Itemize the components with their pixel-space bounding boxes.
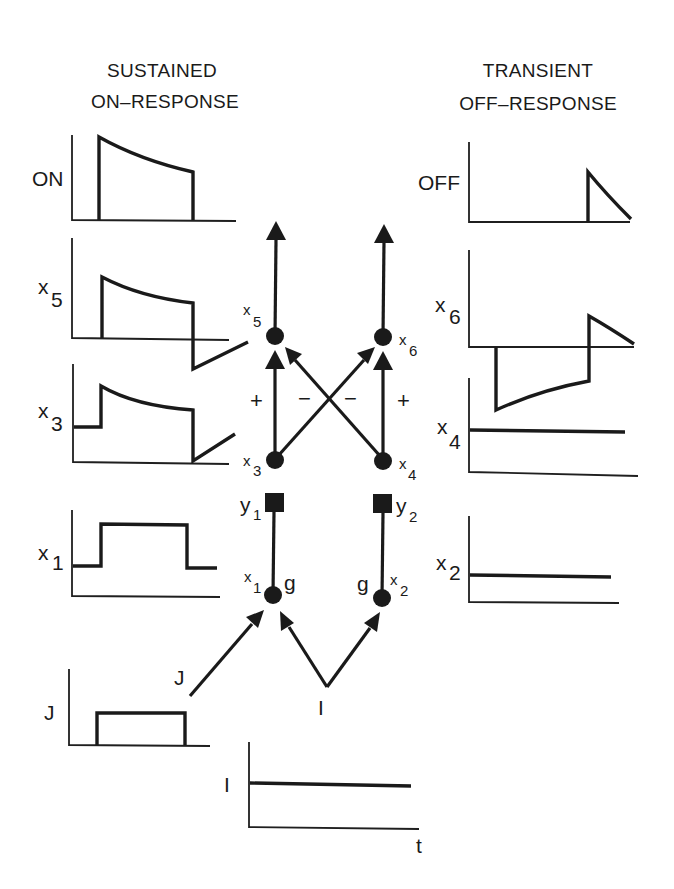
plot-off-trace [588,172,631,222]
node-x2-gate-label: g [357,572,369,595]
plot-x1-trace [73,524,217,568]
sign-right-inhibitory: − [344,386,357,411]
plot-x2-axes [469,516,619,603]
gate-y1-label: y [240,493,251,516]
plot-on-axes [72,135,236,221]
plot-x4-subscript: 4 [449,430,461,453]
plot-j-trace [97,713,185,745]
plot-x3-trace [74,386,235,461]
input-i-label: I [318,696,324,719]
plot-x2: x 2 [436,516,619,603]
x4-to-x5-arrowhead-icon [285,347,302,365]
plot-off: OFF [418,142,631,222]
plot-x5-subscript: 5 [51,288,63,311]
plot-x1-label: x [38,541,49,564]
node-x4-label: x [399,455,407,472]
plot-x6-axes [469,250,634,347]
plot-i: I t [224,742,422,857]
y2-to-x2-wire [382,513,383,598]
right-column-title: TRANSIENT OFF–RESPONSE [459,60,617,114]
i-to-x1-wire [289,627,327,687]
plot-x5-axes [72,238,229,340]
plot-i-trace [250,783,411,786]
y1-to-x1-wire [273,512,274,595]
x6-output-arrowhead-icon [374,224,394,243]
gate-y1-subscript: 1 [253,506,261,523]
node-x3 [266,451,284,469]
x6-output-wire [383,242,384,336]
j-to-x1-wire [190,624,252,696]
gate-y2-label: y [396,494,407,517]
x3-to-x6-arrowhead-icon [357,347,375,364]
gate-y2-square [373,494,392,513]
plot-x6: x 6 [435,250,634,410]
node-x6 [374,328,392,346]
title-transient: TRANSIENT [483,60,593,81]
gated-dipole-diagram: SUSTAINED ON–RESPONSE TRANSIENT OFF–RESP… [0,0,674,889]
i-to-x2-wire [327,628,370,687]
plot-x3: x 3 [38,364,235,464]
plot-x4-label: x [437,415,448,438]
i-to-x1-arrowhead-icon [280,611,294,631]
title-sustained: SUSTAINED [107,60,217,81]
node-x4 [374,452,392,470]
node-x3-subscript: 3 [253,462,261,479]
plot-x2-label: x [436,551,447,574]
x4-to-x6-arrowhead-icon [373,351,393,370]
node-x4-subscript: 4 [408,466,416,483]
plot-off-label: OFF [418,171,460,194]
plot-j-label: J [44,701,55,724]
plot-x6-subscript: 6 [449,305,461,328]
plot-j-axes [69,669,210,746]
node-x2-subscript: 2 [400,582,408,599]
j-to-x1-arrowhead-icon [246,610,264,628]
plot-off-axes [469,142,630,222]
sign-right-excitatory: + [397,388,410,413]
node-x6-label: x [399,331,407,348]
plot-x1: x 1 [38,510,220,597]
node-x5-subscript: 5 [253,313,261,330]
title-off-response: OFF–RESPONSE [459,93,617,114]
i-to-x2-arrowhead-icon [364,612,380,632]
plot-x6-label: x [435,293,446,316]
node-x5 [266,327,284,345]
title-on-response: ON–RESPONSE [91,91,239,112]
plot-x5-trace [102,277,248,369]
node-x1-label: x [244,568,252,585]
x5-output-arrowhead-icon [266,221,286,240]
x5-output-wire [275,240,276,336]
node-x2 [373,589,391,607]
plot-on-trace [99,137,193,220]
plot-on-label: ON [32,167,64,190]
node-x1 [264,586,282,604]
node-x3-label: x [243,452,251,469]
node-x6-subscript: 6 [409,342,417,359]
node-x1-subscript: 1 [253,579,261,596]
plot-x1-subscript: 1 [52,551,64,574]
plot-x5: x 5 [38,238,248,369]
gate-y2-subscript: 2 [409,508,417,525]
node-x1-gate-label: g [284,571,296,594]
node-x2-label: x [390,571,398,588]
plot-x4-trace [470,430,625,432]
x3-to-x5-arrowhead-icon [265,350,285,369]
plot-x6-trace [496,316,634,410]
plot-i-label: I [224,773,230,796]
sign-left-excitatory: + [250,388,263,413]
node-x5-label: x [243,301,251,318]
plot-x5-label: x [38,275,49,298]
plot-on: ON [32,135,236,221]
plot-x2-subscript: 2 [449,561,461,584]
network: x 5 x 6 + − − + x 3 x 4 y 1 y 2 [174,221,417,719]
plot-x3-label: x [38,399,49,422]
plot-j: J [44,669,210,746]
time-axis-label: t [416,834,422,857]
sign-left-inhibitory: − [298,386,311,411]
plot-x3-axes [73,364,229,464]
left-column-title: SUSTAINED ON–RESPONSE [91,60,239,112]
plot-x2-trace [470,575,611,577]
input-j-label: J [174,666,185,689]
gate-y1-square [265,493,284,512]
plot-x3-subscript: 3 [51,412,63,435]
